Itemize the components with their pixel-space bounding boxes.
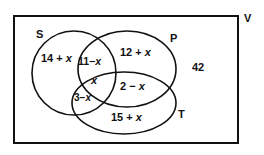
region-s-p-t: x <box>90 74 98 86</box>
region-p-only: 12 + x <box>120 46 152 58</box>
outside-value: 42 <box>192 61 204 73</box>
venn-diagram: V S P T 42 14 + x 11−x x 3−x 12 + x 2 − … <box>0 0 264 155</box>
universe-label: V <box>244 12 252 24</box>
region-s-t-only: 3−x <box>74 92 91 103</box>
region-p-t-only: 2 − x <box>120 80 146 92</box>
set-t-label: T <box>178 108 185 120</box>
set-p-ellipse <box>78 31 176 107</box>
region-s-only: 14 + x <box>41 52 73 64</box>
region-s-p-only: 11−x <box>78 55 102 67</box>
region-t-only: 15 + x <box>111 111 143 123</box>
set-p-label: P <box>170 32 177 44</box>
set-s-label: S <box>36 28 43 40</box>
